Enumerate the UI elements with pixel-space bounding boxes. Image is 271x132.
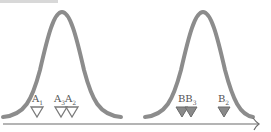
label-a3-a2: A3A2	[54, 94, 76, 106]
label-a1: A1	[32, 94, 43, 106]
distribution-diagram	[0, 0, 271, 132]
marker-a1	[31, 107, 43, 117]
marker-b2	[218, 107, 230, 117]
label-b-b3: BB3	[178, 94, 197, 106]
marker-a3	[55, 107, 67, 117]
bell-curve-b	[145, 12, 253, 117]
label-b2: B2	[218, 94, 229, 106]
marker-b3	[185, 107, 197, 117]
marker-a2	[66, 107, 78, 117]
